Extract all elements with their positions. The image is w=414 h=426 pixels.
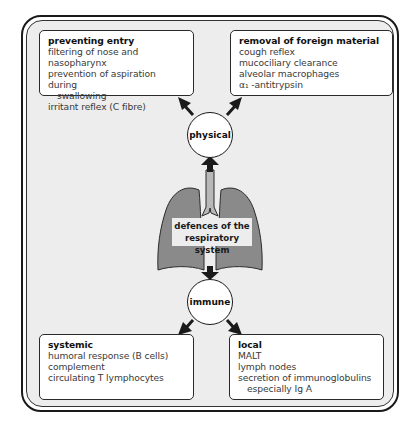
box-line: cough reflex (239, 46, 385, 57)
center-label-line-2: respiratory system (172, 232, 252, 256)
box-title: removal of foreign material (239, 35, 385, 46)
box-line: humoral response (B cells) (48, 350, 186, 361)
box-local: local MALT lymph nodes secretion of immu… (229, 334, 384, 400)
box-preventing-entry: preventing entry filtering of nose and n… (39, 30, 194, 96)
arrow-physical-to-removal-icon (227, 97, 242, 115)
box-line: MALT (238, 350, 376, 361)
box-title: local (238, 339, 376, 350)
box-line: swallowing (48, 90, 186, 101)
center-label: defences of the respiratory system (172, 218, 252, 246)
node-physical-label: physical (189, 130, 231, 140)
box-line: complement (48, 361, 186, 372)
arrow-immune-to-local-icon (227, 320, 242, 335)
node-physical: physical (187, 112, 233, 158)
box-line: secretion of immunoglobulins (238, 372, 376, 383)
box-line: α₁ -antitrypsin (239, 79, 385, 90)
node-immune: immune (187, 279, 233, 325)
box-systemic: systemic humoral response (B cells) comp… (39, 334, 194, 400)
box-title: systemic (48, 339, 186, 350)
box-line: mucociliary clearance (239, 57, 385, 68)
box-title: preventing entry (48, 35, 186, 46)
box-line: prevention of aspiration during (48, 68, 186, 90)
node-immune-label: immune (190, 297, 231, 307)
box-line: lymph nodes (238, 361, 376, 372)
box-line: filtering of nose and nasopharynx (48, 46, 186, 68)
center-label-line-1: defences of the (172, 220, 252, 232)
arrow-up-icon (201, 156, 219, 172)
arrow-immune-to-systemic-icon (178, 320, 193, 335)
box-line: irritant reflex (C fibre) (48, 101, 186, 112)
box-line: especially Ig A (238, 383, 376, 394)
box-line: circulating T lymphocytes (48, 372, 186, 383)
box-removal-of-foreign-material: removal of foreign material cough reflex… (230, 30, 393, 96)
box-line: alveolar macrophages (239, 68, 385, 79)
